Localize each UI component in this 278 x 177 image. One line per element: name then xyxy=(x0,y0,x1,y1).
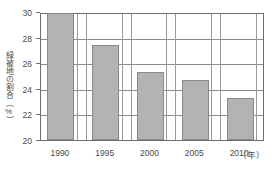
bar-chart: 緑被地の割合（%） 202224262830 （年） 1990199520002… xyxy=(0,0,278,177)
bar xyxy=(92,45,119,140)
bar xyxy=(47,13,74,140)
x-axis-ticks: （年） 19901995200020052010 xyxy=(0,145,278,163)
x-tick-label: 2010 xyxy=(225,148,253,158)
y-tick-label: 28 xyxy=(8,34,32,44)
y-tick-label: 24 xyxy=(8,85,32,95)
bar xyxy=(137,72,164,140)
y-tick-label: 22 xyxy=(8,110,32,120)
x-tick-label: 2005 xyxy=(180,148,208,158)
x-tick-label: 1990 xyxy=(46,148,74,158)
plot-area xyxy=(40,13,264,141)
y-tick-label: 26 xyxy=(8,59,32,69)
bar xyxy=(227,98,254,140)
x-tick-label: 1995 xyxy=(91,148,119,158)
y-tick-label: 30 xyxy=(8,8,32,18)
x-tick-label: 2000 xyxy=(136,148,164,158)
bar-series xyxy=(41,14,263,140)
bar xyxy=(182,80,209,140)
